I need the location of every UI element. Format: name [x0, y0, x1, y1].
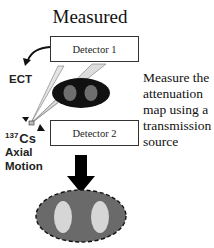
ect-rotation-arrow: [23, 47, 50, 66]
description-line-2: attenuation: [143, 86, 214, 102]
description-line-4: transmission: [143, 118, 214, 134]
phantom-object: [52, 78, 110, 108]
page-title: Measured: [40, 6, 140, 28]
result-down-arrow: [67, 155, 95, 193]
attenuation-map: [36, 190, 126, 242]
detector-2-box: Detector 2: [50, 120, 139, 146]
description-text: Measure the attenuation map using a tran…: [143, 70, 214, 150]
axial-line-2: Motion: [5, 159, 43, 173]
isotope-mass: 137: [5, 131, 18, 140]
description-line-1: Measure the: [143, 70, 214, 86]
detector-2-label: Detector 2: [72, 128, 116, 139]
axial-line-1: Axial: [5, 145, 43, 159]
detector-1-label: Detector 1: [72, 44, 116, 55]
ect-label: ECT: [9, 72, 32, 86]
description-line-5: source: [143, 134, 214, 150]
isotope-symbol: Cs: [19, 131, 36, 146]
description-line-3: map using a: [143, 102, 214, 118]
axial-motion-label: Axial Motion: [5, 145, 43, 173]
detector-1-box: Detector 1: [50, 36, 139, 62]
axial-down-arrow-icon: [37, 124, 45, 131]
axial-up-arrow-icon: [22, 117, 29, 122]
isotope-label: 137Cs: [5, 129, 36, 146]
